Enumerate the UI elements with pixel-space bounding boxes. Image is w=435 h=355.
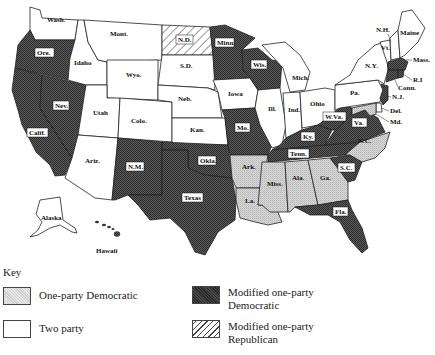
swatch-modified-one-party-republican xyxy=(192,320,220,338)
swatch-two-party xyxy=(3,320,31,338)
key-label: Modified one-party Republican xyxy=(228,320,332,346)
label-wyo: Wyo. xyxy=(126,71,142,79)
label-ny: N.Y. xyxy=(365,62,378,70)
label-nj: N.J. xyxy=(392,93,404,101)
state-south-dakota xyxy=(158,55,215,90)
label-colo: Colo. xyxy=(131,117,147,125)
label-sc: S.C. xyxy=(340,164,353,172)
key-label: One-party Democratic xyxy=(39,287,138,302)
label-vt: Vt. xyxy=(381,44,390,52)
key-item-modified-one-party-republican: Modified one-party Republican xyxy=(192,320,332,346)
key-item-two-party: Two party xyxy=(3,320,84,338)
key-label: Two party xyxy=(39,320,84,335)
label-wis: Wis. xyxy=(253,61,267,69)
key-label: Modified one-party Democratic xyxy=(228,286,332,312)
label-ore: Ore. xyxy=(37,49,51,57)
label-ark: Ark. xyxy=(242,163,256,171)
label-maine: Maine xyxy=(400,29,419,37)
label-conn: Conn. xyxy=(398,84,416,92)
label-sd: S.D. xyxy=(180,62,193,70)
key-title: Key xyxy=(3,266,21,278)
label-fla: Fla. xyxy=(335,208,347,216)
label-texas: Texas xyxy=(184,194,201,202)
state-montana xyxy=(84,20,162,62)
label-mass: Mass. xyxy=(413,56,431,64)
label-pa: Pa. xyxy=(350,89,360,97)
label-ill: Ill. xyxy=(268,105,277,113)
state-hawaii xyxy=(95,221,120,237)
label-kan: Kan. xyxy=(190,126,205,134)
label-mont: Mont. xyxy=(110,30,128,38)
label-ky: Ky. xyxy=(303,133,314,141)
label-neb: Neb. xyxy=(178,95,192,103)
label-md: Md. xyxy=(390,118,403,126)
label-la: La. xyxy=(245,197,255,205)
label-miss: Miss. xyxy=(267,180,283,188)
label-tenn: Tenn. xyxy=(290,150,307,158)
swatch-one-party-democratic xyxy=(3,287,31,305)
label-wash: Wash. xyxy=(47,16,66,24)
label-mich: Mich. xyxy=(292,74,310,82)
label-ri: R.I xyxy=(413,76,423,84)
label-mo: Mo. xyxy=(237,124,249,132)
state-wyoming xyxy=(107,60,158,100)
label-ala: Ala. xyxy=(292,174,305,182)
label-nc: N.C. xyxy=(358,137,372,145)
label-nh: N.H. xyxy=(376,26,390,34)
label-alaska: Alaska xyxy=(41,214,62,222)
state-connecticut xyxy=(386,70,398,82)
label-minn: Minn. xyxy=(217,39,235,47)
state-florida xyxy=(295,200,368,253)
label-nd: N.D. xyxy=(178,36,192,44)
label-calif: Calif. xyxy=(29,129,46,137)
label-okla: Okla. xyxy=(200,157,217,165)
label-va: Va. xyxy=(354,119,364,127)
label-iowa: Iowa xyxy=(228,90,243,98)
label-idaho: Idaho xyxy=(74,59,92,67)
label-nm: N.M. xyxy=(128,163,143,171)
label-utah: Utah xyxy=(93,109,108,117)
swatch-modified-one-party-democratic xyxy=(192,286,220,304)
label-del: Del. xyxy=(390,107,402,115)
label-ind: Ind. xyxy=(288,106,301,114)
state-delaware xyxy=(376,103,382,112)
key-item-one-party-democratic: One-party Democratic xyxy=(3,287,138,305)
us-party-competition-map: Wash. Ore. Nev. Calif. Idaho Mont. Wyo. … xyxy=(0,0,435,270)
label-ariz: Ariz. xyxy=(85,157,100,165)
key-item-modified-one-party-democratic: Modified one-party Democratic xyxy=(192,286,332,312)
label-hawaii: Hawaii xyxy=(96,247,117,255)
label-wva: W.Va. xyxy=(325,113,343,121)
label-ohio: Ohio xyxy=(310,100,325,108)
label-ga: Ga. xyxy=(320,174,331,182)
label-nev: Nev. xyxy=(55,102,68,110)
